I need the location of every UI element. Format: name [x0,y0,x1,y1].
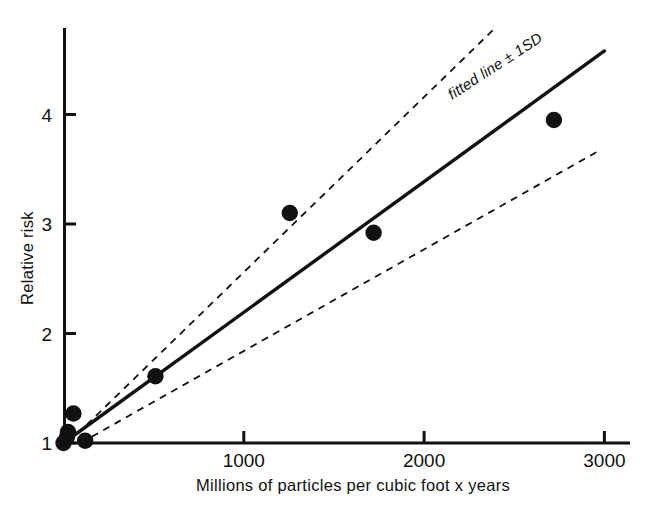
data-point [365,225,381,241]
x-tick-label-3000: 3000 [583,450,625,471]
data-point [77,433,93,449]
chart-canvas: 1234 100020003000 fitted line ± 1SD Mill… [0,0,654,513]
y-tick-label-2: 2 [41,324,52,345]
chart-background [0,0,654,513]
data-point [147,368,163,384]
x-axis-title: Millions of particles per cubic foot x y… [196,476,510,494]
data-point [546,112,562,128]
y-tick-label-4: 4 [41,105,52,126]
relative-risk-scatter-figure: 1234 100020003000 fitted line ± 1SD Mill… [0,0,654,513]
y-axis-title: Relative risk [18,211,36,305]
x-tick-label-2000: 2000 [403,450,445,471]
data-point [59,428,75,444]
y-tick-label-1: 1 [41,433,52,454]
data-point [65,405,81,421]
y-tick-label-3: 3 [41,214,52,235]
data-point [282,205,298,221]
x-tick-label-1000: 1000 [223,450,265,471]
